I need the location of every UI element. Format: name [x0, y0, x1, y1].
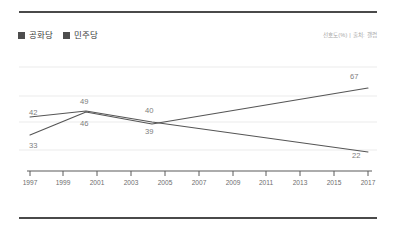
xtick-2013: 2013 [293, 180, 308, 187]
x-axis [27, 171, 372, 176]
data-label-democrat-2004: 39 [145, 128, 153, 136]
series-line-republican [30, 111, 368, 152]
xtick-2005: 2005 [158, 180, 173, 187]
xtick-2007: 2007 [192, 180, 207, 187]
xtick-2001: 2001 [90, 180, 105, 187]
data-label-democrat-2000: 46 [80, 120, 88, 128]
xtick-2009: 2009 [226, 180, 241, 187]
xtick-2003: 2003 [124, 180, 139, 187]
data-label-democrat-1997: 33 [29, 142, 37, 150]
chart-plot-area [0, 0, 396, 227]
xtick-2015: 2015 [327, 180, 342, 187]
xtick-1997: 1997 [23, 180, 38, 187]
data-label-republican-2000: 49 [80, 98, 88, 106]
data-label-republican-2004: 40 [145, 107, 153, 115]
xtick-1999: 1999 [56, 180, 71, 187]
xtick-2017: 2017 [361, 180, 376, 187]
data-label-republican-2017: 22 [352, 152, 360, 160]
xtick-2011: 2011 [259, 180, 273, 187]
data-label-republican-1997: 42 [29, 109, 37, 117]
chart-figure: 공화당 민주당 선호도(%) | 출처: 갤럽 [0, 0, 396, 227]
gridlines [19, 67, 377, 150]
data-label-democrat-2017: 67 [350, 73, 358, 81]
